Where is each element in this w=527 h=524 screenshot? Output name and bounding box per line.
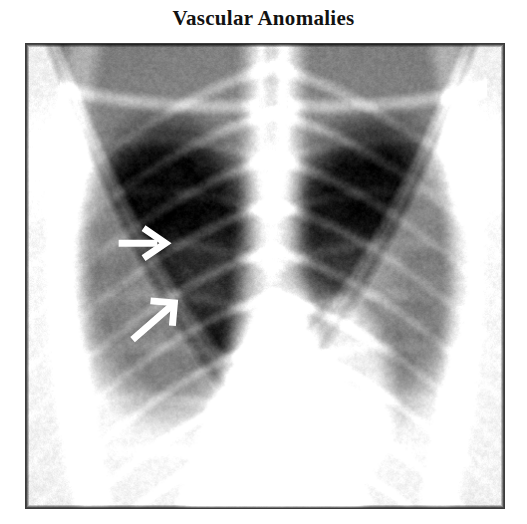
figure-title: Vascular Anomalies: [0, 4, 527, 32]
chest-xray-figure: [25, 43, 505, 509]
chest-xray-image: [26, 44, 504, 508]
